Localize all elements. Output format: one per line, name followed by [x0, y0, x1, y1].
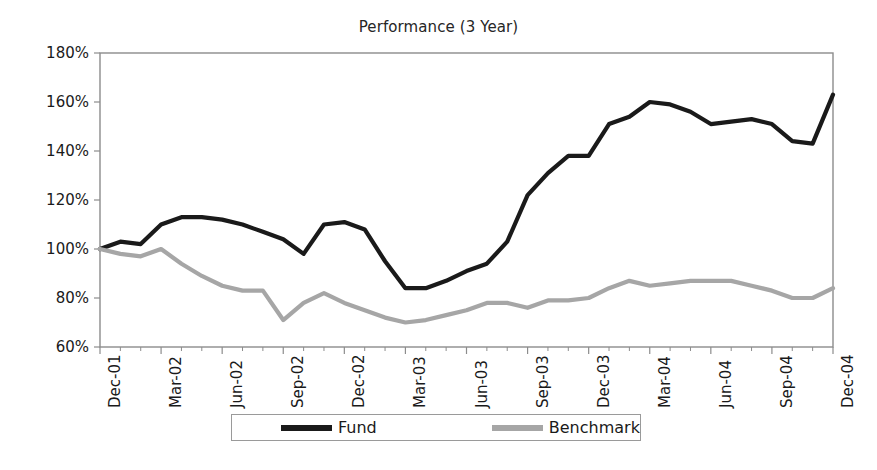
x-axis-tick-label: Mar-02: [167, 356, 185, 408]
x-axis-tick-label: Jun-03: [473, 360, 491, 408]
x-axis-tick-label: Sep-02: [289, 355, 307, 408]
performance-chart: Performance (3 Year) 60%80%100%120%140%1…: [0, 0, 877, 470]
y-axis-tick-label: 140%: [18, 142, 89, 160]
x-axis-tick-label: Dec-03: [595, 354, 613, 408]
y-axis-tick-label: 80%: [18, 289, 89, 307]
series-line-benchmark: [100, 249, 833, 323]
legend-item-benchmark: Benchmark: [492, 415, 640, 440]
x-axis-tick-label: Dec-02: [350, 354, 368, 408]
x-axis-tick-label: Dec-01: [106, 354, 124, 408]
x-axis-tick-label: Jun-02: [228, 360, 246, 408]
legend-swatch-benchmark-icon: [492, 425, 543, 431]
y-axis-tick-label: 120%: [18, 191, 89, 209]
x-axis-tick-label: Mar-03: [411, 356, 429, 408]
x-axis-tick-label: Sep-03: [534, 355, 552, 408]
x-axis-tick-label: Sep-04: [778, 355, 796, 408]
y-axis-tick-label: 160%: [18, 93, 89, 111]
y-axis-tick-label: 60%: [18, 338, 89, 356]
legend-item-fund: Fund: [281, 415, 377, 440]
y-axis-tick-label: 180%: [18, 44, 89, 62]
chart-legend: Fund Benchmark: [231, 414, 641, 441]
legend-label-fund: Fund: [338, 418, 377, 437]
legend-label-benchmark: Benchmark: [549, 418, 640, 437]
x-axis-tick-label: Dec-04: [839, 354, 857, 408]
plot-area: [0, 0, 877, 470]
plot-frame: [100, 53, 833, 347]
legend-swatch-fund-icon: [281, 425, 332, 431]
series-line-fund: [100, 95, 833, 289]
x-axis-tick-label: Mar-04: [656, 356, 674, 408]
y-axis-tick-label: 100%: [18, 240, 89, 258]
x-axis-tick-label: Jun-04: [717, 360, 735, 408]
